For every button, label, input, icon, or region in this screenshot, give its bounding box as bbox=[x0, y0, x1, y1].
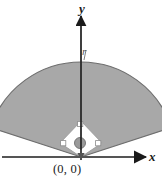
origin-label: (0, 0) bbox=[53, 163, 81, 176]
y-axis-label: y bbox=[79, 2, 85, 15]
x-axis-label: x bbox=[149, 150, 156, 163]
radius-label: r bbox=[82, 46, 86, 57]
center-dot-marker bbox=[75, 138, 86, 149]
right-angle-mark-right bbox=[96, 141, 101, 146]
figure-canvas bbox=[0, 0, 162, 185]
math-figure: y x r (0, 0) bbox=[0, 0, 162, 185]
right-angle-mark-left bbox=[61, 141, 66, 146]
